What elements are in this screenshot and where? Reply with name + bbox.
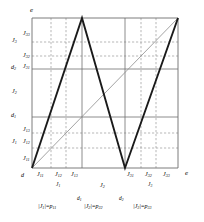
- y-axis-label-J3: J3: [12, 37, 17, 44]
- x-axis-label-e: e: [185, 170, 188, 177]
- y-axis-label-J33: J33: [23, 30, 30, 37]
- formula-J3: |J3|=p33: [133, 203, 151, 210]
- x-axis-label-J11: J11: [37, 171, 43, 178]
- formula-J2: |J2|=p22: [84, 203, 102, 210]
- x-axis-label-J2: J2: [100, 182, 105, 189]
- x-axis-label-J12: J12: [55, 171, 62, 178]
- y-axis-label-J31: J31: [23, 63, 30, 70]
- x-axis-label-J33: J33: [163, 171, 170, 178]
- identity-diagonal-line: [32, 18, 178, 168]
- x-axis-label-d2: d2: [119, 196, 124, 202]
- y-axis-label-J32: J32: [23, 52, 30, 59]
- y-axis-label-J2: J2: [12, 88, 17, 95]
- x-axis-label-d: d: [21, 172, 24, 178]
- y-axis-label-J1: J1: [12, 138, 17, 145]
- y-axis-label-J13: J13: [23, 126, 30, 133]
- x-axis-label-d1: d1: [77, 196, 82, 202]
- y-axis-label-J12: J12: [23, 138, 30, 145]
- y-axis-label-J11: J11: [23, 155, 29, 162]
- x-axis-label-J1: J1: [56, 182, 60, 188]
- formula-J1: |J1|=p11: [38, 203, 56, 210]
- x-axis-label-J13: J13: [71, 171, 78, 178]
- y-axis-label-d2: d2: [11, 64, 16, 71]
- x-axis-label-J3: J3: [148, 182, 152, 188]
- x-axis-label-J32: J32: [145, 171, 152, 178]
- y-axis-label-e: e: [30, 7, 33, 14]
- y-axis-label-d1: d1: [11, 112, 16, 119]
- x-axis-label-J31: J31: [127, 171, 134, 178]
